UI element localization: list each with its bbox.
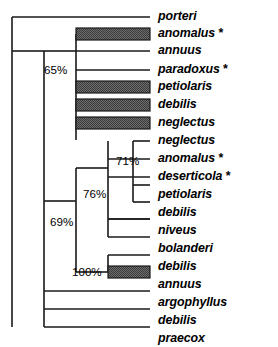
highlight-bar-neglectus-1 <box>76 117 150 129</box>
highlight-bar-anomalus-1 <box>76 28 150 40</box>
taxon-label-paradoxus: paradoxus * <box>158 63 228 75</box>
marker-icon: * <box>218 26 223 40</box>
taxon-label-debilis-4: debilis <box>158 314 197 326</box>
taxon-label-bolanderi: bolanderi <box>158 242 213 254</box>
highlight-bar-debilis-1 <box>76 99 150 111</box>
taxon-label-neglectus-1: neglectus <box>158 116 215 128</box>
taxon-label-annuus-1: annuus <box>158 44 201 56</box>
taxon-label-debilis-3: debilis <box>158 260 197 272</box>
support-label-69: 69% <box>50 216 73 227</box>
marker-icon: * <box>223 62 228 76</box>
taxon-label-anomalus-1: anomalus * <box>158 27 223 39</box>
marker-icon: * <box>218 151 223 165</box>
taxon-label-porteri: porteri <box>158 10 197 22</box>
taxon-label-argophyllus: argophyllus <box>158 296 227 308</box>
taxon-label-petiolaris-1: petiolaris <box>158 80 212 92</box>
taxon-label-praecox: praecox <box>158 332 205 344</box>
support-label-71: 71% <box>116 155 139 166</box>
taxon-label-debilis-2: debilis <box>158 206 197 218</box>
taxon-label-debilis-1: debilis <box>158 98 197 110</box>
highlight-bars <box>76 28 150 278</box>
taxon-label-neglectus-2: neglectus <box>158 134 215 146</box>
phylogenetic-tree-figure: porteri anomalus * annuus paradoxus * pe… <box>0 0 278 347</box>
cladogram-svg <box>0 0 278 347</box>
taxon-label-deserticola: deserticola * <box>158 170 230 182</box>
marker-icon: * <box>226 169 231 183</box>
taxon-label-annuus-2: annuus <box>158 278 201 290</box>
taxon-label-petiolaris-2: petiolaris <box>158 188 212 200</box>
highlight-bar-annuus-2 <box>108 266 150 278</box>
support-label-100: 100% <box>72 266 102 277</box>
taxon-label-niveus: niveus <box>158 224 197 236</box>
support-label-76: 76% <box>83 188 106 199</box>
support-label-65: 65% <box>44 64 67 75</box>
highlight-bar-petiolaris-1 <box>76 81 150 93</box>
branch-lines <box>12 17 150 327</box>
taxon-label-anomalus-2: anomalus * <box>158 152 223 164</box>
